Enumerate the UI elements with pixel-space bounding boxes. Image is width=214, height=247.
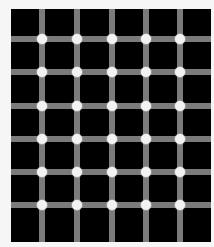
intersection-dot <box>37 34 47 44</box>
intersection-dot <box>141 134 151 144</box>
intersection-dot <box>175 200 185 210</box>
intersection-dot <box>72 134 82 144</box>
intersection-dot <box>141 67 151 77</box>
intersection-dot <box>107 67 117 77</box>
intersection-dot <box>141 34 151 44</box>
intersection-dot <box>72 67 82 77</box>
intersection-dot <box>107 200 117 210</box>
intersection-dot <box>72 101 82 111</box>
intersection-dot <box>141 167 151 177</box>
intersection-dot <box>72 34 82 44</box>
intersection-dot <box>107 167 117 177</box>
intersection-dot <box>37 167 47 177</box>
intersection-dot <box>107 34 117 44</box>
intersection-dot <box>175 167 185 177</box>
illusion-canvas <box>0 0 214 247</box>
intersection-dot <box>37 200 47 210</box>
intersection-dot <box>141 200 151 210</box>
intersection-dot <box>37 67 47 77</box>
intersection-dot <box>72 167 82 177</box>
intersection-dot <box>175 34 185 44</box>
intersection-dot <box>141 101 151 111</box>
intersection-dot <box>72 200 82 210</box>
black-grid-board <box>11 9 211 242</box>
intersection-dot <box>175 67 185 77</box>
intersection-dot <box>175 101 185 111</box>
intersection-dot <box>37 101 47 111</box>
intersection-dot <box>107 101 117 111</box>
intersection-dot <box>107 134 117 144</box>
intersection-dot <box>175 134 185 144</box>
intersection-dot <box>37 134 47 144</box>
